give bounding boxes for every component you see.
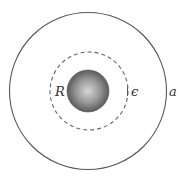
label-R: R [54, 84, 65, 99]
label-a: a [169, 84, 177, 99]
inner-sphere [67, 70, 109, 112]
label-epsilon: ϵ [131, 84, 139, 99]
concentric-sphere-diagram: R ϵ a [0, 0, 185, 181]
